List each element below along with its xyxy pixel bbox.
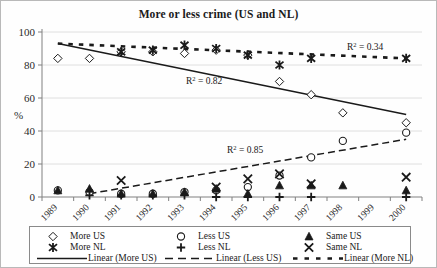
y-tick-label: 40 [24, 125, 36, 137]
data-point-more-us [402, 119, 410, 127]
y-tick-label: 0 [30, 191, 36, 203]
data-point-same-nl [244, 175, 252, 183]
legend-item-more-us: More US [36, 231, 105, 242]
legend-label: Same NL [326, 242, 362, 253]
data-point-more-us [339, 109, 347, 117]
data-point-same-nl [117, 176, 125, 184]
legend-marker-diamond-icon [36, 231, 70, 242]
legend-label: Less US [198, 231, 230, 242]
data-point-less-us [308, 154, 315, 161]
legend-label: More US [70, 231, 105, 242]
y-tick-label: 60 [24, 92, 36, 104]
legend-marker-plus-icon [164, 242, 198, 253]
trendline-linear-more-us [58, 44, 406, 115]
data-point-more-nl [402, 54, 410, 63]
data-point-more-us [180, 49, 188, 57]
data-point-less-nl [212, 193, 220, 201]
legend-item-same-us: Same US [292, 231, 362, 242]
y-tick-label: 20 [24, 158, 36, 170]
data-point-more-nl [307, 54, 315, 63]
legend-item-linear-less-us: Linear (Less US) [164, 253, 281, 264]
data-point-same-us [86, 185, 94, 193]
y-tick-label: 80 [24, 59, 36, 71]
x-tick-label: 1989 [39, 202, 60, 223]
x-tick-label: 1998 [324, 202, 345, 223]
data-point-less-nl [275, 193, 283, 201]
legend-label: Linear (Less US) [216, 253, 281, 264]
legend-marker-line-dotted-icon [292, 253, 344, 264]
r2-annotation-more-us: R2 = 0.82 [186, 75, 223, 86]
legend-marker-line-dashed-icon [164, 253, 216, 264]
x-tick-label: 1997 [292, 202, 313, 223]
legend-item-less-us: Less US [164, 231, 230, 242]
data-point-less-us [339, 137, 346, 144]
legend-label: Linear (More NL) [344, 253, 413, 264]
data-point-same-us [339, 181, 347, 189]
legend-item-more-nl: More NL [36, 242, 106, 253]
x-tick-label: 1990 [70, 202, 91, 223]
data-point-more-us [85, 54, 93, 62]
y-tick-label: 100 [19, 26, 36, 38]
legend-item-linear-more-us: Linear (More US) [36, 253, 157, 264]
data-point-less-us [403, 129, 410, 136]
data-point-less-nl [307, 193, 315, 201]
data-point-less-nl [244, 193, 252, 201]
legend-marker-circle-icon [164, 231, 198, 242]
r2-annotation-less-us: R2 = 0.85 [227, 144, 264, 155]
legend-label: Linear (More US) [88, 253, 157, 264]
data-point-more-nl [181, 41, 189, 50]
r2-annotation-more-nl: R2 = 0.34 [347, 41, 384, 52]
x-tick-label: 1999 [355, 202, 376, 223]
x-tick-label: 1995 [229, 202, 250, 223]
legend-marker-asterisk-icon [36, 242, 70, 253]
legend-item-linear-more-nl: Linear (More NL) [292, 253, 413, 264]
legend-label: Less NL [198, 242, 230, 253]
legend-label: More NL [70, 242, 106, 253]
x-tick-label: 1993 [165, 202, 186, 223]
legend-label: Same US [326, 231, 362, 242]
legend-item-same-nl: Same NL [292, 242, 362, 253]
chart-container: More or less crime (US and NL) 020406080… [0, 0, 437, 268]
data-point-more-us [275, 77, 283, 85]
data-point-same-us [276, 181, 284, 189]
x-tick-label: 2000 [387, 202, 408, 223]
y-axis-unit-label: % [14, 109, 23, 121]
chart-legend: More USLess USSame USMore NLLess NLSame … [29, 226, 411, 264]
legend-marker-cross-icon [292, 242, 326, 253]
legend-marker-triangle-icon [292, 231, 326, 242]
data-point-more-us [54, 54, 62, 62]
data-point-same-us [402, 186, 410, 194]
x-tick-label: 1996 [260, 202, 281, 223]
x-tick-label: 1992 [134, 202, 155, 223]
legend-item-less-nl: Less NL [164, 242, 230, 253]
x-tick-label: 1991 [102, 202, 123, 223]
data-point-same-nl [402, 173, 410, 181]
legend-marker-line-solid-icon [36, 253, 88, 264]
x-tick-label: 1994 [197, 202, 218, 223]
